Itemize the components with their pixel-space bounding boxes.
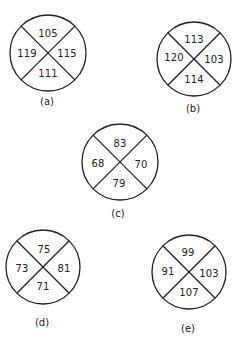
value-top: 99 bbox=[181, 247, 194, 258]
value-right: 103 bbox=[199, 268, 219, 279]
divided-circle-e bbox=[0, 0, 234, 337]
value-bottom: 107 bbox=[179, 287, 199, 298]
figure-caption: (e) bbox=[181, 323, 195, 334]
value-left: 91 bbox=[161, 266, 174, 277]
figure-e: 99 103 107 91 (e) bbox=[0, 0, 234, 337]
